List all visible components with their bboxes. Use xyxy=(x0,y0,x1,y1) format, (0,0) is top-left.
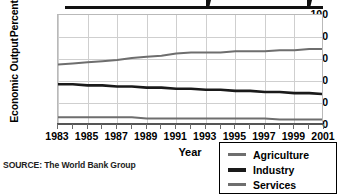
x-axis-tick xyxy=(279,124,280,129)
x-axis-tick xyxy=(190,124,191,129)
x-axis-tick xyxy=(249,124,250,129)
legend-item-industry[interactable]: Industry xyxy=(228,162,336,177)
x-axis-tick-label: 1989 xyxy=(134,130,157,142)
legend-swatch-icon xyxy=(228,183,246,186)
legend-item-label: Agriculture xyxy=(253,149,309,161)
x-axis-tick-label: 1987 xyxy=(104,130,127,142)
legend-item-label: Industry xyxy=(253,164,294,176)
x-axis-tick-label: 1985 xyxy=(75,130,98,142)
x-axis-tick-label: 2001 xyxy=(311,130,334,142)
x-axis-tick xyxy=(175,124,176,129)
y-axis-label-line-1: Percent of Annual xyxy=(8,0,20,37)
plot-area xyxy=(57,14,323,124)
y-axis-label-line-2: Economic Output xyxy=(8,38,20,123)
x-axis-ticks xyxy=(57,124,323,129)
series-line-agriculture xyxy=(58,117,323,119)
x-axis-tick xyxy=(146,124,147,129)
x-axis-tick-label: 1999 xyxy=(282,130,305,142)
x-axis-tick xyxy=(293,124,294,129)
x-axis-tick xyxy=(131,124,132,129)
x-axis-tick xyxy=(57,124,58,129)
x-axis-tick xyxy=(72,124,73,129)
series-line-industry xyxy=(58,84,323,94)
x-axis-tick xyxy=(323,124,324,129)
x-axis-tick xyxy=(160,124,161,129)
x-axis-tick-label: 1991 xyxy=(164,130,187,142)
series-line-services xyxy=(58,49,323,64)
legend-item-label: Services xyxy=(253,179,296,191)
legend: AgricultureIndustryServices xyxy=(219,142,337,194)
x-axis-tick xyxy=(234,124,235,129)
x-axis-tick xyxy=(87,124,88,129)
x-axis-tick-label: 1997 xyxy=(252,130,275,142)
source-note: SOURCE: The World Bank Group xyxy=(3,160,136,170)
y-axis-label: Percent of Annual Economic Output xyxy=(0,0,29,89)
legend-item-agriculture[interactable]: Agriculture xyxy=(228,147,336,162)
series-lines xyxy=(58,15,323,124)
x-axis-tick-label: 1995 xyxy=(223,130,246,142)
x-axis-tick xyxy=(264,124,265,129)
x-axis-tick xyxy=(220,124,221,129)
x-axis-tick xyxy=(116,124,117,129)
legend-swatch-icon xyxy=(228,168,246,172)
legend-swatch-icon xyxy=(228,153,246,156)
x-axis-tick-label: 1993 xyxy=(193,130,216,142)
x-axis-tick xyxy=(308,124,309,129)
x-axis-tick-label: 1983 xyxy=(45,130,68,142)
legend-item-services[interactable]: Services xyxy=(228,177,336,192)
x-axis-tick xyxy=(205,124,206,129)
x-axis-tick xyxy=(101,124,102,129)
